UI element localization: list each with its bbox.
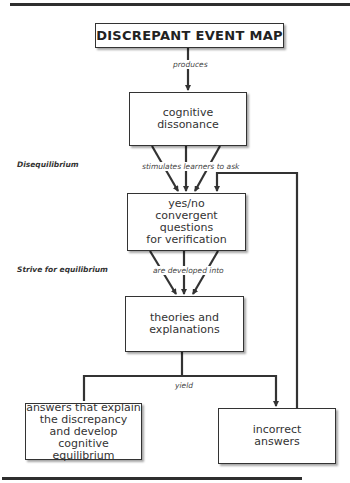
node-incorrect-answers: incorrect answers	[218, 408, 336, 464]
edge-label-stimulates: stimulates learners to ask	[141, 162, 240, 171]
edge-label-yield: yield	[174, 381, 194, 390]
edge-label-produces: produces	[172, 60, 209, 69]
node-convergent-questions: yes/no convergent questions for verifica…	[127, 193, 246, 251]
map-title: DISCREPANT EVENT MAP	[96, 30, 283, 42]
side-label-strive-for-equilibrium: Strive for equilibrium	[17, 265, 108, 274]
side-label-disequilibrium: Disequilibrium	[17, 160, 79, 169]
node-cognitive-dissonance: cognitive dissonance	[129, 92, 247, 146]
edge-label-developed-into: are developed into	[152, 266, 225, 275]
node-theories-explanations: theories and explanations	[125, 296, 244, 352]
node-correct-answers: answers that explain the discrepancy and…	[25, 403, 142, 460]
title-box: DISCREPANT EVENT MAP	[95, 23, 284, 48]
